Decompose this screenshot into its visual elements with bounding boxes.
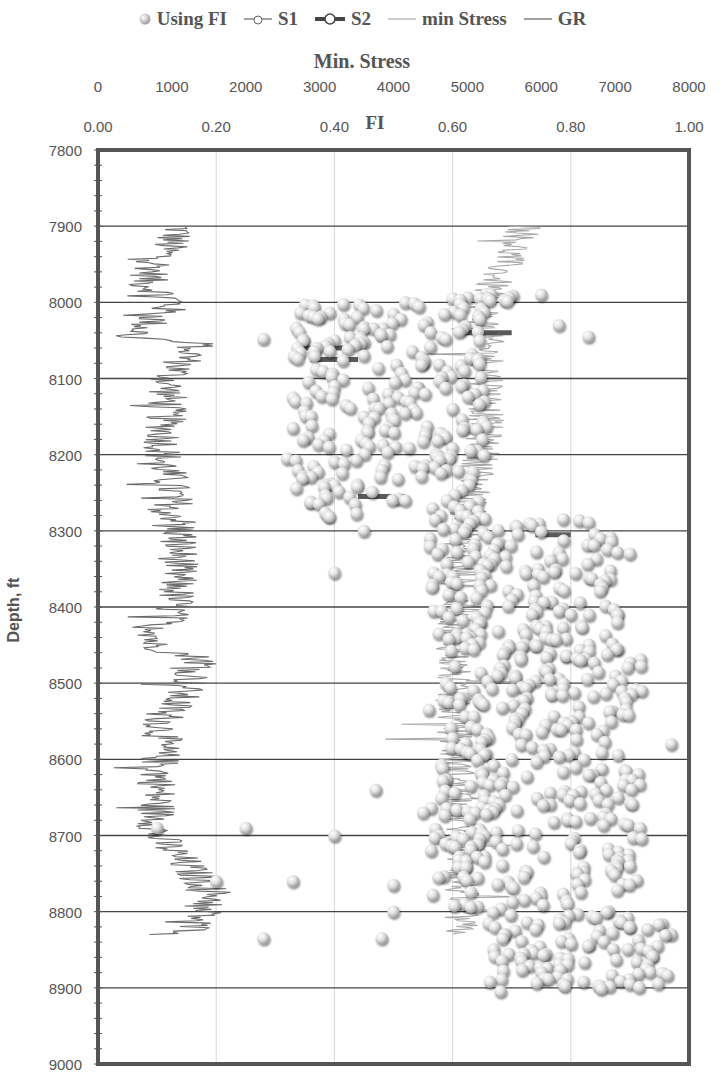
using-fi-markers <box>151 288 678 998</box>
gr-curve <box>114 226 231 934</box>
plot-area <box>0 0 724 1089</box>
